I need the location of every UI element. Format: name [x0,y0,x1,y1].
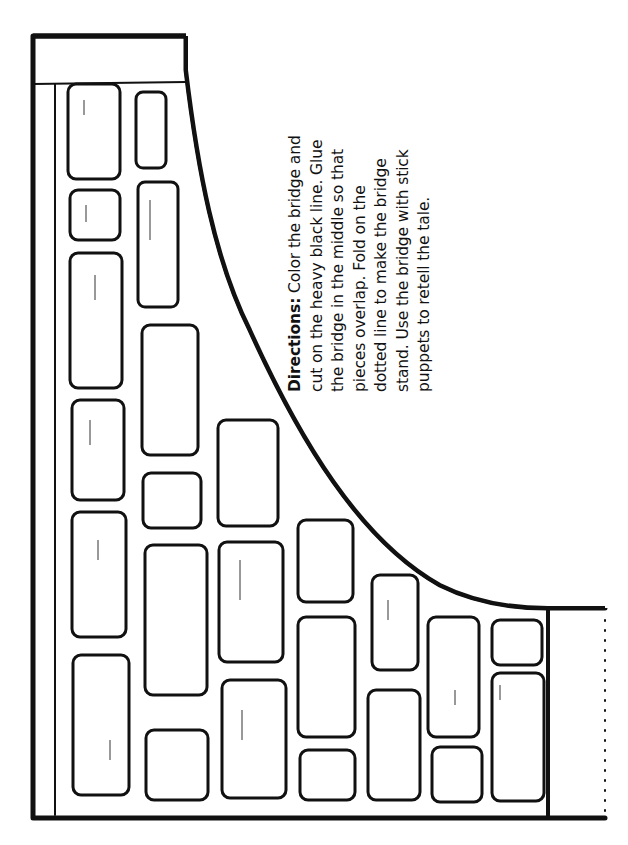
directions-line-3: the bridge in the middle so that [328,32,350,392]
directions-line-5: dotted line to make the bridge [371,32,393,392]
directions-text: Directions: Color the bridge and cut on … [285,32,436,392]
directions-line-1: Directions: Color the bridge and [285,32,307,392]
directions-line-7: puppets to retell the tale. [414,32,436,392]
directions-line-2: cut on the heavy black line. Glue [307,32,329,392]
directions-line-4: pieces overlap. Fold on the [350,32,372,392]
directions-line-6: stand. Use the bridge with stick [393,32,415,392]
directions-label: Directions: [286,298,304,392]
